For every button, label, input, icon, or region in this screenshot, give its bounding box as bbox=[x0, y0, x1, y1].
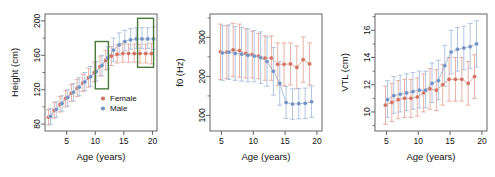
legend-marker-female bbox=[101, 96, 105, 100]
data-point-male bbox=[111, 48, 115, 52]
data-point-male bbox=[117, 43, 121, 47]
data-point-male bbox=[227, 50, 231, 54]
y-tick-label: 300 bbox=[197, 30, 207, 44]
data-point-male bbox=[100, 64, 104, 68]
data-point-female bbox=[396, 98, 400, 102]
data-point-male bbox=[71, 90, 75, 94]
x-tick-label: 20 bbox=[312, 136, 322, 146]
data-point-female bbox=[472, 74, 476, 78]
data-point-male bbox=[123, 39, 127, 43]
data-point-male bbox=[284, 100, 288, 104]
x-tick-label: 10 bbox=[91, 136, 101, 146]
data-point-male bbox=[66, 95, 70, 99]
data-point-female bbox=[390, 100, 394, 104]
data-point-female bbox=[466, 81, 470, 85]
data-point-male bbox=[128, 38, 132, 42]
y-axis-label: f0 (Hz) bbox=[174, 58, 185, 87]
data-point-female bbox=[269, 56, 273, 60]
y-tick-label: 10 bbox=[362, 107, 372, 117]
data-point-female bbox=[282, 62, 286, 66]
x-axis-label: Age (years) bbox=[76, 151, 125, 162]
data-point-female bbox=[144, 51, 148, 55]
data-point-male bbox=[462, 46, 466, 50]
data-point-male bbox=[233, 51, 237, 55]
data-point-male bbox=[424, 88, 428, 92]
x-axis-label: Age (years) bbox=[406, 151, 455, 162]
data-point-male bbox=[468, 45, 472, 49]
y-tick-label: 14 bbox=[362, 53, 372, 63]
y-tick-label: 200 bbox=[197, 69, 207, 83]
data-point-female bbox=[441, 83, 445, 87]
data-point-female bbox=[415, 95, 419, 99]
data-point-female bbox=[288, 62, 292, 66]
data-point-female bbox=[402, 96, 406, 100]
data-point-male bbox=[252, 54, 256, 58]
data-point-female bbox=[121, 51, 125, 55]
y-axis-label: VTL (cm) bbox=[339, 53, 350, 92]
x-tick-label: 5 bbox=[219, 136, 224, 146]
x-tick-label: 20 bbox=[477, 136, 487, 146]
data-point-female bbox=[276, 62, 280, 66]
x-tick-label: 10 bbox=[414, 136, 424, 146]
data-point-male bbox=[398, 92, 402, 96]
x-tick-label: 5 bbox=[384, 136, 389, 146]
data-point-male bbox=[449, 50, 453, 54]
figure-container: 5101520Age (years)80120160200Height (cm)… bbox=[0, 0, 495, 177]
data-point-male bbox=[140, 37, 144, 41]
data-point-male bbox=[436, 79, 440, 83]
y-tick-label: 80 bbox=[32, 119, 42, 129]
data-point-male bbox=[455, 47, 459, 51]
data-point-male bbox=[54, 107, 58, 111]
legend-label-female: Female bbox=[110, 94, 137, 103]
data-point-male bbox=[271, 69, 275, 73]
data-point-male bbox=[443, 64, 447, 68]
y-tick-label: 16 bbox=[362, 25, 372, 35]
data-point-female bbox=[115, 52, 119, 56]
panel-vtl: 5101520Age (years)10121416VTL (cm) bbox=[330, 0, 495, 177]
x-tick-label: 15 bbox=[119, 136, 129, 146]
data-point-male bbox=[239, 52, 243, 56]
data-point-female bbox=[295, 65, 299, 69]
data-point-male bbox=[474, 42, 478, 46]
data-point-male bbox=[265, 59, 269, 63]
data-point-male bbox=[303, 101, 307, 105]
y-axis-label: Height (cm) bbox=[9, 48, 20, 97]
y-tick-label: 160 bbox=[32, 48, 42, 62]
data-point-male bbox=[404, 91, 408, 95]
data-point-male bbox=[246, 53, 250, 57]
data-point-male bbox=[88, 75, 92, 79]
data-point-male bbox=[430, 81, 434, 85]
y-tick-label: 120 bbox=[32, 82, 42, 96]
data-point-female bbox=[383, 103, 387, 107]
data-point-male bbox=[106, 56, 110, 60]
data-point-female bbox=[447, 77, 451, 81]
panel-height: 5101520Age (years)80120160200Height (cm)… bbox=[0, 0, 165, 177]
panel-f0: 5101520Age (years)100200300f0 (Hz) bbox=[165, 0, 330, 177]
y-tick-label: 100 bbox=[197, 108, 207, 122]
x-tick-label: 10 bbox=[249, 136, 259, 146]
data-point-female bbox=[132, 51, 136, 55]
x-tick-label: 15 bbox=[445, 136, 455, 146]
y-tick-label: 200 bbox=[32, 14, 42, 28]
data-point-male bbox=[297, 102, 301, 106]
x-tick-label: 20 bbox=[148, 136, 158, 146]
y-tick-label: 12 bbox=[362, 80, 372, 90]
legend-marker-male bbox=[101, 106, 105, 110]
data-point-female bbox=[307, 62, 311, 66]
data-point-male bbox=[83, 80, 87, 84]
x-tick-label: 15 bbox=[280, 136, 290, 146]
x-axis-label: Age (years) bbox=[241, 151, 290, 162]
data-point-female bbox=[453, 77, 457, 81]
data-point-male bbox=[60, 101, 64, 105]
data-point-male bbox=[411, 89, 415, 93]
data-point-male bbox=[77, 85, 81, 89]
data-point-male bbox=[417, 88, 421, 92]
data-point-female bbox=[409, 96, 413, 100]
data-point-female bbox=[434, 88, 438, 92]
data-point-male bbox=[309, 100, 313, 104]
data-point-male bbox=[392, 94, 396, 98]
data-point-male bbox=[290, 102, 294, 106]
data-point-male bbox=[146, 37, 150, 41]
data-point-male bbox=[278, 81, 282, 85]
data-point-male bbox=[385, 98, 389, 102]
